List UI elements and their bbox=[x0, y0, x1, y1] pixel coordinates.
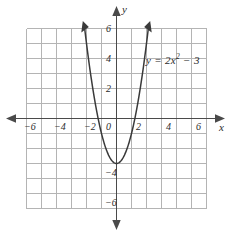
x-tick-label--4: −4 bbox=[54, 122, 66, 132]
x-axis-label: x bbox=[219, 122, 224, 133]
y-axis-label: y bbox=[122, 4, 127, 15]
equation-base: y = 2x bbox=[146, 54, 176, 66]
x-tick-label-2: 2 bbox=[136, 122, 141, 132]
x-tick-label-4: 4 bbox=[166, 122, 171, 132]
y-tick-label--4: −4 bbox=[105, 168, 117, 178]
y-tick-label-6: 6 bbox=[106, 24, 111, 34]
x-tick-label--6: −6 bbox=[24, 122, 36, 132]
y-tick-label--6: −6 bbox=[105, 198, 117, 208]
x-tick-label-0: 0 bbox=[106, 122, 111, 132]
equation-annotation: y = 2x2 − 3 bbox=[146, 53, 200, 66]
x-tick-label-6: 6 bbox=[196, 122, 201, 132]
equation-tail: − 3 bbox=[180, 54, 200, 66]
graph-figure: −6 −4 −2 0 2 4 6 6 4 2 −4 −6 y x y = 2x2… bbox=[0, 0, 231, 231]
x-axis bbox=[6, 114, 225, 122]
y-tick-label-4: 4 bbox=[106, 54, 111, 64]
x-tick-label--2: −2 bbox=[84, 122, 96, 132]
y-tick-label-2: 2 bbox=[106, 84, 111, 94]
